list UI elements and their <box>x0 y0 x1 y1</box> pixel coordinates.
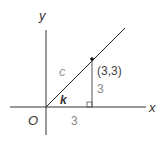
x-axis-label: x <box>148 100 156 115</box>
y-axis-label: y <box>38 8 47 23</box>
point-marker <box>90 57 94 61</box>
angle-label: k <box>60 93 68 107</box>
point-label: (3,3) <box>97 64 122 78</box>
base-length-label: 3 <box>71 114 78 128</box>
coordinate-diagram: y x O (3,3) c k 3 3 <box>0 0 164 141</box>
diagram-canvas: y x O (3,3) c k 3 3 <box>0 0 164 141</box>
origin-label: O <box>28 113 38 128</box>
hypotenuse-label: c <box>59 64 66 79</box>
height-length-label: 3 <box>97 82 104 96</box>
right-angle-mark <box>87 102 92 107</box>
